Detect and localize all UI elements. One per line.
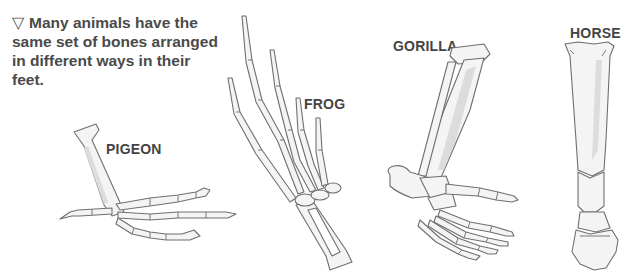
horse-leg-illustration xyxy=(565,42,618,270)
frog-foot-illustration xyxy=(228,16,352,270)
pigeon-foot-illustration xyxy=(60,124,236,240)
gorilla-foot-illustration xyxy=(388,44,518,260)
